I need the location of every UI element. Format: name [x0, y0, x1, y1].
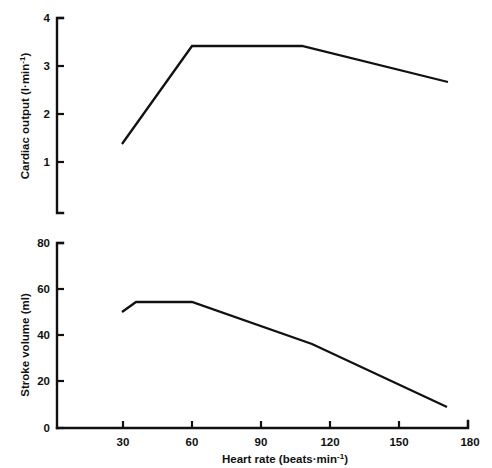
- top-panel-cardiac-output: 4 3 2 1 Cardiac output (l·min-1): [18, 12, 448, 213]
- x-axis-title-main: Heart rate (beats·min: [222, 453, 337, 465]
- top-panel-y-axis-title: Cardiac output (l·min-1): [18, 53, 31, 180]
- top-panel-yticklabel-4: 4: [44, 12, 51, 24]
- x-axis-spine: [57, 421, 468, 428]
- bottom-panel-yticklabel-20: 20: [37, 375, 50, 387]
- figure-container: 4 3 2 1 Cardiac output (l·min-1) 80 60: [0, 0, 492, 468]
- bottom-panel-data-line: [122, 302, 447, 407]
- bottom-panel-yticklabel-80: 80: [37, 237, 50, 249]
- bottom-panel-y-axis-title: Stroke volume (ml): [19, 293, 31, 397]
- xticklabel-30: 30: [117, 436, 130, 448]
- xticklabel-120: 120: [320, 436, 339, 448]
- bottom-panel-yticklabel-60: 60: [37, 283, 50, 295]
- cardiac-output-stroke-volume-figure: 4 3 2 1 Cardiac output (l·min-1) 80 60: [0, 0, 492, 468]
- xticklabel-150: 150: [389, 436, 408, 448]
- x-axis-title: Heart rate (beats·min-1): [222, 452, 348, 465]
- xticklabel-60: 60: [186, 436, 199, 448]
- xticklabel-90: 90: [255, 436, 268, 448]
- x-axis-title-tail: ): [344, 453, 348, 465]
- top-panel-y-axis-title-tail: ): [19, 53, 31, 57]
- bottom-panel-stroke-volume: 80 60 40 20 0 Stroke volume (ml) 30 60 9…: [19, 237, 480, 465]
- bottom-panel-yticklabel-0: 0: [44, 422, 50, 434]
- top-panel-data-line: [122, 46, 448, 144]
- bottom-panel-yticklabel-40: 40: [37, 329, 50, 341]
- top-panel-yticklabel-3: 3: [44, 60, 50, 72]
- xticklabel-180: 180: [460, 436, 479, 448]
- top-panel-yticklabel-1: 1: [44, 156, 51, 168]
- top-panel-yticklabel-2: 2: [44, 108, 50, 120]
- top-panel-y-axis-spine: [57, 18, 63, 213]
- top-panel-y-axis-title-main: Cardiac output (l·min: [19, 64, 31, 180]
